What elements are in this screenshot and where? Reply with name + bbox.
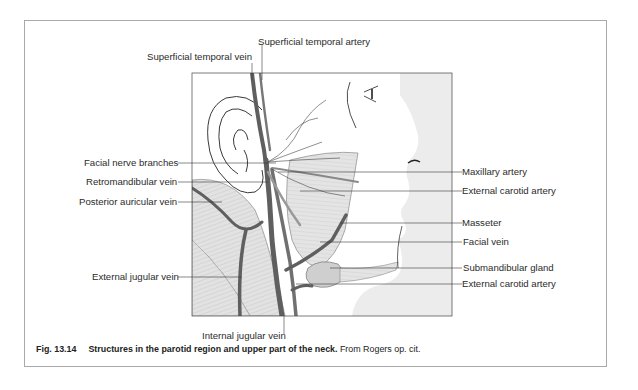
label-maxillary-artery: Maxillary artery	[462, 166, 527, 177]
label-internal-jugular-vein: Internal jugular vein	[202, 330, 286, 341]
label-facial-vein: Facial vein	[463, 236, 509, 247]
label-posterior-auricular-vein: Posterior auricular vein	[79, 196, 177, 207]
label-superficial-temporal-artery: Superficial temporal artery	[258, 36, 370, 47]
figure-number: Fig. 13.14	[36, 344, 76, 354]
ear-drawing	[208, 97, 263, 193]
figure-source: From Rogers op. cit.	[337, 344, 420, 354]
face-profile-shade	[352, 73, 452, 316]
label-external-carotid-artery-lower: External carotid artery	[462, 278, 556, 289]
figure-caption: Fig. 13.14Structures in the parotid regi…	[36, 344, 420, 354]
label-facial-nerve-branches: Facial nerve branches	[84, 157, 178, 168]
label-external-carotid-artery-upper: External carotid artery	[462, 185, 556, 196]
label-masseter: Masseter	[462, 217, 501, 228]
label-retromandibular-vein: Retromandibular vein	[86, 176, 177, 187]
superficial-temporal-vein-vessel	[252, 73, 266, 165]
label-superficial-temporal-vein: Superficial temporal vein	[147, 51, 252, 62]
label-external-jugular-vein: External jugular vein	[92, 271, 179, 282]
submandibular-gland-shape	[306, 262, 343, 288]
eye-drawing	[347, 82, 378, 128]
label-submandibular-gland: Submandibular gland	[463, 262, 554, 273]
masseter-muscle	[286, 152, 358, 268]
figure-title: Structures in the parotid region and upp…	[88, 344, 337, 354]
